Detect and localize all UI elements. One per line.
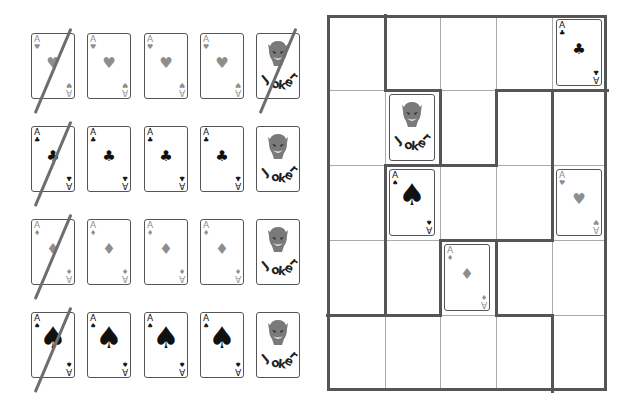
suit-icon: ♣ xyxy=(179,174,185,182)
rank-label: A xyxy=(179,368,185,376)
corner-index-bottom: A♠ xyxy=(66,360,72,376)
corner-index-bottom: A♣ xyxy=(122,174,128,190)
corner-index-bottom: A♦ xyxy=(235,267,241,283)
ace-of-diamonds-reference-card[interactable]: A♦♦A♦ xyxy=(144,219,188,285)
joker-reference-card[interactable]: Joker xyxy=(256,126,300,192)
suit-icon: ♦ xyxy=(481,293,487,301)
suit-icon: ♥ xyxy=(593,218,599,226)
region-border xyxy=(384,89,442,92)
rank-label: A xyxy=(122,368,128,376)
ace-of-hearts-reference-card[interactable]: A♥♥A♥ xyxy=(200,33,244,99)
rank-label: A xyxy=(235,275,241,283)
suit-icon: ♠ xyxy=(66,360,72,368)
center-suit-icon: ♦ xyxy=(145,234,187,264)
rank-label: A xyxy=(447,246,453,254)
corner-index-bottom: A♥ xyxy=(66,81,72,97)
suit-icon: ♣ xyxy=(593,68,599,76)
joker-reference-card[interactable]: Joker xyxy=(256,219,300,285)
puzzle-grid: A♣♣A♣JokerA♠♠A♠A♥♥A♥A♦♦A♦ xyxy=(327,15,607,391)
suit-icon: ♦ xyxy=(235,267,241,275)
ace-of-clubs-reference-card[interactable]: A♣♣A♣ xyxy=(200,126,244,192)
ace-of-clubs-placed-card[interactable]: A♣♣A♣ xyxy=(556,19,602,86)
ace-of-spades-reference-card[interactable]: A♠♠A♠ xyxy=(200,312,244,378)
rank-label: A xyxy=(122,182,128,190)
suit-icon: ♣ xyxy=(235,174,241,182)
region-border xyxy=(495,89,498,167)
suit-icon: ♦ xyxy=(179,267,185,275)
region-border xyxy=(439,164,498,167)
region-border xyxy=(551,314,554,393)
rank-label: A xyxy=(235,368,241,376)
region-border xyxy=(439,89,442,167)
ace-of-spades-reference-card[interactable]: A♠♠A♠ xyxy=(144,312,188,378)
joker-skull-icon xyxy=(401,101,423,129)
ace-of-diamonds-reference-card[interactable]: A♦♦A♦ xyxy=(200,219,244,285)
rank-label: A xyxy=(90,128,96,136)
corner-index-bottom: A♠ xyxy=(122,360,128,376)
corner-index-bottom: A♦ xyxy=(179,267,185,283)
center-suit-icon: ♥ xyxy=(88,48,130,78)
region-border xyxy=(384,164,387,317)
joker-label: Joker xyxy=(257,163,299,183)
center-suit-icon: ♠ xyxy=(201,323,243,353)
suit-icon: ♣ xyxy=(66,174,72,182)
rank-label: A xyxy=(593,76,599,84)
ace-of-hearts-reference-card[interactable]: A♥♥A♥ xyxy=(87,33,131,99)
ace-of-spades-reference-card[interactable]: A♠♠A♠ xyxy=(87,312,131,378)
rank-label: A xyxy=(34,35,40,43)
center-suit-icon: ♥ xyxy=(201,48,243,78)
corner-index-bottom: A♣ xyxy=(179,174,185,190)
grid-line-vertical xyxy=(440,18,441,388)
center-suit-icon: ♣ xyxy=(88,141,130,171)
joker-label: Joker xyxy=(257,349,299,369)
center-suit-icon: ♠ xyxy=(88,323,130,353)
ace-of-spades-placed-card[interactable]: A♠♠A♠ xyxy=(389,169,435,236)
region-border xyxy=(551,89,554,242)
corner-index-bottom: A♠ xyxy=(235,360,241,376)
center-suit-icon: ♣ xyxy=(201,141,243,171)
region-border xyxy=(439,239,442,317)
center-suit-icon: ♥ xyxy=(145,48,187,78)
center-suit-icon: ♠ xyxy=(390,180,434,210)
ace-of-clubs-reference-card[interactable]: A♣♣A♣ xyxy=(87,126,131,192)
corner-index-bottom: A♦ xyxy=(122,267,128,283)
center-suit-icon: ♣ xyxy=(557,34,601,64)
corner-index-bottom: A♥ xyxy=(179,81,185,97)
rank-label: A xyxy=(90,221,96,229)
joker-reference-card[interactable]: Joker xyxy=(256,312,300,378)
ace-of-hearts-placed-card[interactable]: A♥♥A♥ xyxy=(556,169,602,236)
rank-label: A xyxy=(203,128,209,136)
joker-skull-icon xyxy=(267,226,289,254)
suit-icon: ♣ xyxy=(122,174,128,182)
rank-label: A xyxy=(179,275,185,283)
joker-skull-icon xyxy=(267,133,289,161)
grid-line-vertical xyxy=(496,18,497,388)
rank-label: A xyxy=(203,35,209,43)
corner-index-bottom: A♥ xyxy=(235,81,241,97)
ace-of-diamonds-placed-card[interactable]: A♦♦A♦ xyxy=(444,244,490,311)
corner-index-bottom: A♥ xyxy=(122,81,128,97)
ace-of-hearts-reference-card[interactable]: A♥♥A♥ xyxy=(144,33,188,99)
rank-label: A xyxy=(147,35,153,43)
region-border xyxy=(495,239,498,317)
rank-label: A xyxy=(66,368,72,376)
region-border xyxy=(495,314,554,317)
joker-skull-icon xyxy=(267,319,289,347)
rank-label: A xyxy=(481,301,487,309)
rank-label: A xyxy=(559,171,565,179)
ace-of-clubs-reference-card[interactable]: A♣♣A♣ xyxy=(144,126,188,192)
ace-of-diamonds-reference-card[interactable]: A♦♦A♦ xyxy=(87,219,131,285)
rank-label: A xyxy=(179,182,185,190)
joker-label: Joker xyxy=(257,256,299,276)
rank-label: A xyxy=(66,275,72,283)
rank-label: A xyxy=(66,182,72,190)
corner-index-bottom: A♠ xyxy=(179,360,185,376)
corner-index-bottom: A♣ xyxy=(235,174,241,190)
rank-label: A xyxy=(122,89,128,97)
joker-placed-card[interactable]: Joker xyxy=(389,94,435,161)
rank-label: A xyxy=(66,89,72,97)
rank-label: A xyxy=(559,21,565,29)
corner-index-bottom: A♥ xyxy=(593,218,599,234)
rank-label: A xyxy=(147,221,153,229)
rank-label: A xyxy=(90,35,96,43)
